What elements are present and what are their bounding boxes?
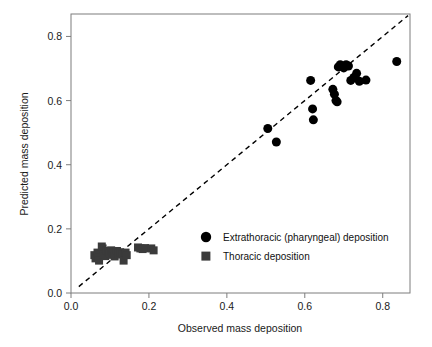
chart-container: 0.00.20.40.60.8 0.00.20.40.60.8 Observed… bbox=[0, 0, 432, 347]
data-point-circle bbox=[263, 124, 272, 133]
legend-label-extrathoracic: Extrathoracic (pharyngeal) deposition bbox=[223, 232, 389, 243]
data-point-circle bbox=[344, 61, 353, 70]
x-tick-label: 0.8 bbox=[375, 300, 390, 312]
x-tick-label: 0.4 bbox=[220, 300, 235, 312]
x-axis-title: Observed mass deposition bbox=[178, 322, 302, 334]
data-point-circle bbox=[333, 97, 342, 106]
y-axis-title: Predicted mass deposition bbox=[18, 92, 30, 215]
data-point-square bbox=[123, 251, 131, 259]
data-point-circle bbox=[272, 137, 281, 146]
data-point-circle bbox=[392, 57, 401, 66]
data-point-circle bbox=[309, 115, 318, 124]
y-tick-label: 0.2 bbox=[47, 223, 62, 235]
series-extrathoracic-deposition bbox=[263, 57, 401, 146]
y-tick-label: 0.6 bbox=[47, 95, 62, 107]
data-point-circle bbox=[306, 76, 315, 85]
legend-marker-circle-icon bbox=[201, 232, 211, 242]
y-tick-label: 0.4 bbox=[47, 159, 62, 171]
identity-reference-line bbox=[79, 16, 408, 287]
y-axis-ticks: 0.00.20.40.60.8 bbox=[47, 30, 71, 299]
data-point-circle bbox=[352, 69, 361, 78]
y-tick-label: 0.8 bbox=[47, 30, 62, 42]
legend-marker-square-icon bbox=[201, 252, 210, 261]
x-tick-label: 0.0 bbox=[64, 300, 79, 312]
data-point-square bbox=[150, 246, 158, 254]
x-tick-label: 0.6 bbox=[297, 300, 312, 312]
y-tick-label: 0.0 bbox=[47, 287, 62, 299]
series-thoracic-deposition bbox=[90, 243, 157, 265]
scatter-plot: 0.00.20.40.60.8 0.00.20.40.60.8 Observed… bbox=[0, 0, 432, 347]
legend: Extrathoracic (pharyngeal) deposition Th… bbox=[201, 232, 389, 262]
legend-label-thoracic: Thoracic deposition bbox=[223, 251, 310, 262]
data-point-circle bbox=[361, 76, 370, 85]
x-axis-ticks: 0.00.20.40.60.8 bbox=[64, 293, 390, 312]
data-point-circle bbox=[308, 104, 317, 113]
x-tick-label: 0.2 bbox=[142, 300, 157, 312]
identity-line bbox=[79, 16, 408, 287]
